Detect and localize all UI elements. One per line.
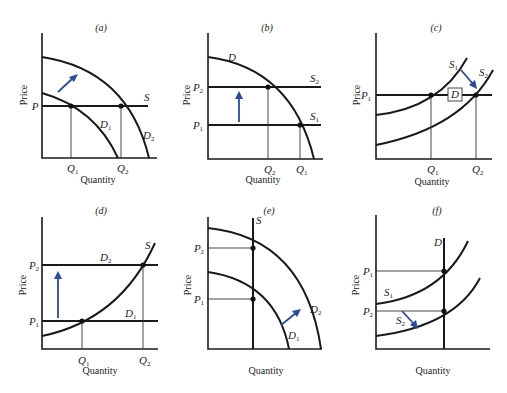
svg-text:S: S: [256, 214, 262, 226]
svg-text:S: S: [144, 91, 150, 103]
svg-text:P2: P2: [193, 242, 205, 256]
svg-text:Price: Price: [18, 84, 29, 105]
svg-text:D2: D2: [99, 251, 112, 265]
svg-text:Q2: Q2: [139, 354, 151, 368]
panel-title-a: (a): [95, 22, 107, 34]
svg-text:D: D: [450, 88, 459, 100]
svg-text:Price: Price: [17, 274, 28, 295]
panel-c: (c) D S1 S2 P1 Q1 Q2 Quantity Price: [351, 22, 493, 187]
panel-f: (f) D S1 S2 P1 P2 Quantity Price: [350, 205, 490, 376]
svg-text:(f): (f): [432, 205, 442, 217]
svg-text:D1: D1: [287, 329, 300, 343]
svg-text:Q2: Q2: [117, 162, 129, 176]
supply-demand-figure: (a) P S D1 D2 Q1 Q2 Quantity Price (b): [0, 0, 507, 393]
svg-text:D1: D1: [124, 307, 137, 321]
svg-text:(e): (e): [263, 205, 275, 217]
svg-text:P2: P2: [362, 305, 374, 319]
axes-b: [208, 33, 323, 159]
svg-text:Price: Price: [350, 274, 361, 295]
demand-curve-d2-a: [42, 57, 149, 158]
svg-text:D2: D2: [309, 303, 322, 317]
svg-text:P1: P1: [193, 293, 205, 307]
supply-curve-s2-c: [376, 70, 493, 145]
demand-curve-b: [208, 57, 314, 159]
svg-text:Q1: Q1: [427, 163, 439, 177]
panel-e: (e) S D2 D1 P2 P1 Quantity Price: [182, 205, 322, 376]
svg-text:P1: P1: [28, 315, 40, 329]
svg-text:Q1: Q1: [67, 162, 79, 176]
svg-text:P2: P2: [192, 81, 204, 95]
svg-text:S2: S2: [479, 66, 489, 80]
equilibrium-point: [118, 103, 123, 108]
svg-text:S: S: [145, 239, 151, 251]
shift-arrow-icon: [461, 70, 473, 84]
svg-text:P1: P1: [192, 119, 204, 133]
svg-text:P: P: [31, 100, 39, 112]
svg-text:Q1: Q1: [296, 163, 308, 177]
axes-e: [208, 217, 322, 349]
svg-text:Quantity: Quantity: [415, 176, 450, 187]
svg-text:D1: D1: [99, 118, 112, 132]
axes-f: [376, 215, 490, 349]
svg-text:S1: S1: [449, 58, 459, 72]
svg-text:Quantity: Quantity: [249, 365, 284, 376]
equilibrium-point: [68, 103, 73, 108]
svg-text:(c): (c): [430, 22, 442, 34]
panel-d: (d) S D2 D1 P2 P1 Q1 Q2 Quantity Price: [17, 205, 158, 376]
svg-text:D2: D2: [142, 129, 155, 143]
svg-text:D: D: [227, 51, 236, 63]
demand-curve-d1-e: [208, 272, 289, 349]
svg-text:S1: S1: [310, 110, 320, 124]
shift-arrow-icon: [58, 78, 73, 92]
svg-text:Price: Price: [351, 84, 362, 105]
svg-text:P1: P1: [362, 265, 374, 279]
panel-b: (b) D S2 S1 P2 P1 Q2 Q1 Quantity Price: [181, 22, 323, 185]
axes-d: [42, 217, 158, 349]
svg-text:S2: S2: [310, 72, 320, 86]
svg-text:Q2: Q2: [472, 163, 484, 177]
svg-text:(b): (b): [261, 22, 273, 34]
panel-a: (a) P S D1 D2 Q1 Q2 Quantity Price: [18, 22, 157, 185]
axes-a: [42, 33, 157, 158]
shift-arrow-icon: [281, 313, 296, 325]
svg-text:S1: S1: [384, 286, 394, 300]
svg-text:Quantity: Quantity: [83, 365, 118, 376]
svg-text:Price: Price: [181, 84, 192, 105]
svg-text:Price: Price: [182, 274, 193, 295]
supply-curve-d: [42, 243, 155, 336]
demand-curve-d2-e: [208, 228, 321, 349]
svg-text:Quantity: Quantity: [246, 174, 281, 185]
svg-text:S2: S2: [396, 314, 406, 328]
svg-text:P2: P2: [28, 259, 40, 273]
svg-text:(d): (d): [95, 205, 107, 217]
svg-text:Quantity: Quantity: [81, 174, 116, 185]
svg-text:D: D: [433, 236, 442, 248]
svg-text:Quantity: Quantity: [416, 365, 451, 376]
